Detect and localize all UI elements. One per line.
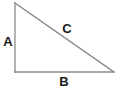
side-label-b: B: [57, 75, 71, 88]
side-label-a: A: [1, 35, 15, 48]
triangle-side-c-hypotenuse: [15, 3, 114, 72]
side-label-c: C: [60, 22, 74, 35]
right-triangle-figure: A B C: [0, 0, 120, 93]
